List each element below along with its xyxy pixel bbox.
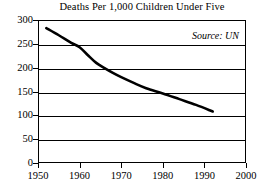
line-series-deaths-per-1000	[46, 28, 212, 111]
data-series-layer	[0, 0, 266, 190]
chart-figure: Deaths Per 1,000 Children Under Five Sou…	[0, 0, 266, 190]
